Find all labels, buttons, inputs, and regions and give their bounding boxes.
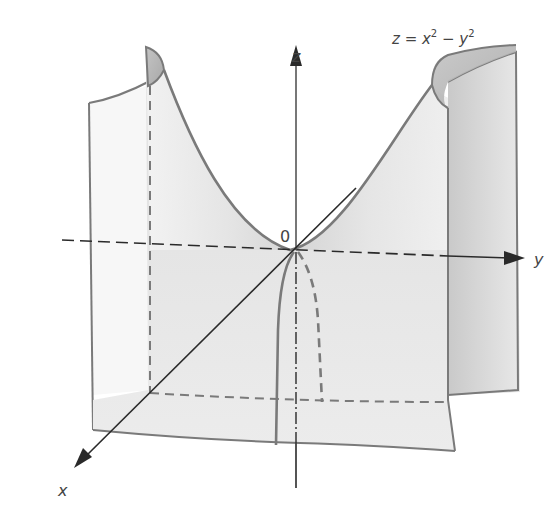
z-axis-label: z [291, 47, 301, 66]
equation-exp2: 2 [468, 28, 474, 39]
origin-label: 0 [280, 227, 290, 246]
surface-equation: z = x2 − y2 [391, 28, 475, 48]
x-axis-arrow-icon [74, 448, 92, 468]
saddle-surface-diagram: z y x 0 z = x2 − y2 [0, 0, 555, 513]
equation-minus: − y [437, 30, 469, 48]
surface-left-panel [89, 80, 152, 430]
x-axis-label: x [57, 481, 68, 500]
y-axis-label: y [533, 250, 544, 269]
svg-text:z = x2 − y2: z = x2 − y2 [391, 28, 475, 48]
surface-right-strip [448, 52, 520, 395]
equation-lhs: z = x [391, 30, 431, 48]
